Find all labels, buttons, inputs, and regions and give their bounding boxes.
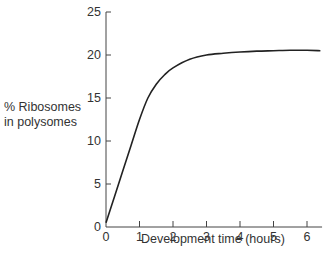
y-tick-label: 10 bbox=[87, 134, 101, 148]
x-tick-label: 6 bbox=[304, 230, 311, 244]
y-axis-label-line-1: % Ribosomes bbox=[4, 100, 81, 115]
y-tick-label: 15 bbox=[87, 91, 101, 105]
y-tick-label: 5 bbox=[94, 177, 101, 191]
y-tick-label: 20 bbox=[87, 48, 101, 62]
data-line bbox=[106, 50, 320, 222]
y-axis-label: % Ribosomes in polysomes bbox=[4, 100, 81, 130]
y-axis: 0510152025 bbox=[87, 5, 111, 234]
line-chart: 0510152025 0123456 bbox=[0, 0, 329, 262]
y-tick-label: 0 bbox=[94, 220, 101, 234]
y-axis-label-line-2: in polysomes bbox=[4, 115, 81, 130]
x-tick-label: 0 bbox=[103, 230, 110, 244]
y-tick-label: 25 bbox=[87, 5, 101, 19]
x-axis-label: Development time (hours) bbox=[141, 232, 285, 246]
